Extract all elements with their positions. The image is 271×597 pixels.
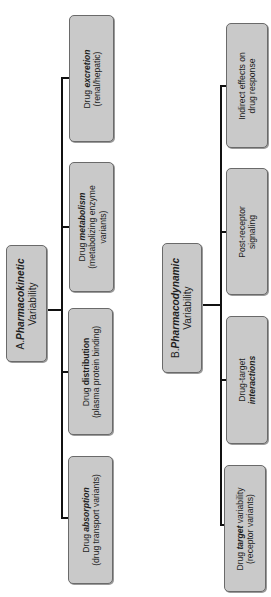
drug-excretion-node: Drug excretion (renal/hepatic): [69, 15, 114, 142]
pharmacokinetic-variability-node: A.Pharmacokinetic Variability: [6, 245, 47, 362]
drug-target-interactions-node: Drug-target interactions: [226, 316, 268, 444]
node-text: Drug-target: [237, 356, 247, 405]
node-emphasis: interactions: [247, 356, 257, 405]
drug-distribution-node: Drug distribution (plasma protein bindin…: [68, 308, 113, 435]
node-emphasis: excretion: [81, 49, 91, 87]
drug-target-variability-node: Drug target variability (receptor varian…: [224, 465, 266, 592]
connector-b-header: [202, 304, 222, 306]
header-prefix: A.: [14, 339, 25, 349]
connector-a-trunk: [61, 77, 63, 519]
node-emphasis: metabolism: [76, 193, 86, 241]
node-text: Indirect effects on: [237, 52, 247, 120]
node-detail: (plasma protein binding): [91, 325, 101, 417]
header-prefix: B.: [170, 348, 181, 358]
indirect-effects-node: Indirect effects on drug response: [226, 23, 268, 148]
node-detail: (receptor variants): [245, 487, 255, 570]
node-text: Drug: [80, 532, 90, 553]
header-line2: Variability: [27, 258, 39, 349]
node-emphasis: target: [235, 525, 245, 549]
connector-b-trunk: [220, 85, 222, 526]
connector-a-excretion: [61, 77, 69, 79]
header-line2: Variability: [182, 258, 194, 358]
node-emphasis: distribution: [80, 337, 90, 384]
node-detail: drug response: [247, 52, 257, 120]
connector-a-metabolism: [61, 226, 69, 228]
drug-absorption-node: Drug absorption (drug transport variants…: [68, 456, 113, 584]
node-detail-2: variants): [97, 185, 107, 269]
node-detail: (metabolizing enzyme: [86, 185, 96, 269]
post-receptor-signaling-node: Post-receptor signaling: [226, 168, 268, 295]
node-emphasis: absorption: [80, 487, 90, 531]
node-detail: (drug transport variants): [91, 474, 101, 566]
node-detail: signaling: [247, 206, 257, 258]
drug-metabolism-node: Drug metabolism (metabolizing enzyme var…: [69, 162, 114, 292]
node-text: Drug: [235, 549, 245, 570]
node-text: Drug: [76, 240, 86, 261]
pharmacodynamic-variability-node: B.Pharmacodynamic Variability: [162, 243, 202, 373]
node-detail: (renal/hepatic): [92, 49, 102, 108]
node-text: Drug: [80, 385, 90, 406]
node-text-post: variability: [235, 487, 245, 525]
node-text: Drug: [81, 87, 91, 108]
header-emphasis: Pharmacodynamic: [170, 258, 181, 349]
header-emphasis: Pharmacokinetic: [14, 258, 25, 340]
node-text: Post-receptor: [237, 206, 247, 258]
